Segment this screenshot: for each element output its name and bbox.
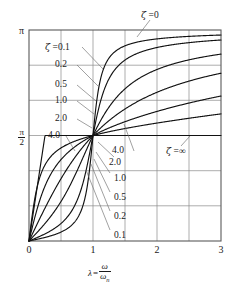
x-axis-title-denominator: ωn: [99, 272, 111, 283]
annotation-lower-value-5: 0.1: [114, 231, 126, 241]
zeta-symbol-infinity: ζ: [166, 145, 171, 156]
leader-zeta-zero: [137, 20, 150, 37]
x-axis-title: λ = ω ωn: [88, 262, 111, 284]
annotation-lower-value-2: 1.0: [114, 174, 126, 184]
annotation-upper-value-5: 4.0: [48, 131, 60, 141]
annotation-upper-value-3: 1.0: [55, 96, 67, 106]
annotation-upper-value-4: 2.0: [55, 114, 67, 124]
x-tick-2: 2: [147, 244, 167, 255]
x-tick-1: 1: [83, 244, 103, 255]
annotation-lower-value-4: 0.2: [114, 212, 126, 222]
zeta-value-infinity: =∞: [174, 146, 186, 156]
annotation-upper-value-0: =0.1: [53, 42, 70, 52]
x-axis-title-fraction: ω ωn: [99, 262, 111, 284]
annotation-lower-value-0: 4.0: [112, 146, 124, 156]
zeta-symbol-top: ζ: [141, 9, 146, 20]
annotation-lower-value-3: 0.5: [114, 193, 126, 203]
zeta-symbol-upper: ζ: [45, 41, 50, 52]
annotation-zeta-infinity: ζ =∞: [166, 146, 186, 157]
annotation-upper-zeta-0p1: ζ =0.1: [45, 42, 70, 53]
annotation-lower-value-1: 2.0: [109, 158, 121, 168]
y-tick-pi-over-2-den: 2: [18, 138, 25, 147]
annotation-upper-value-2: 0.5: [55, 80, 67, 90]
x-axis-title-equals: =: [93, 268, 98, 278]
annotation-upper-value-1: 0.2: [55, 60, 67, 70]
y-tick-pi: π: [10, 25, 24, 36]
zeta-value-top: =0: [149, 10, 159, 20]
x-tick-3: 3: [211, 244, 231, 255]
x-axis-title-lambda: λ: [88, 268, 92, 278]
x-tick-0: 0: [19, 244, 39, 255]
annotation-zeta-0: ζ =0: [141, 10, 159, 21]
y-tick-pi-over-2: π 2: [8, 128, 25, 147]
phase-angle-chart: π π 2 0 1 2 3 λ = ω ωn ζ =0 ζ =0.1 0.2 0…: [0, 0, 236, 292]
